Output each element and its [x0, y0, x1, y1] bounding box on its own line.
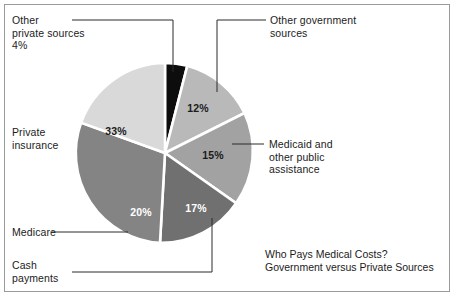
- chart-caption: Who Pays Medical Costs? Government versu…: [265, 248, 434, 274]
- slice-value-private-insurance: 33%: [105, 125, 126, 137]
- pie-slices: [76, 63, 253, 243]
- slice-value-other-government-sources: 12%: [187, 102, 208, 114]
- leader-other-government-sources: [217, 20, 266, 92]
- slice-value-cash-payments: 17%: [185, 202, 206, 214]
- callout-cash-payments: Cash payments: [12, 259, 58, 284]
- callout-medicaid: Medicaid and other public assistance: [269, 138, 333, 176]
- callout-medicare: Medicare: [12, 226, 56, 239]
- slice-value-medicaid: 15%: [202, 149, 223, 161]
- slice-value-medicare: 20%: [130, 206, 151, 218]
- callout-other-private-sources: Other private sources 4%: [12, 14, 85, 52]
- pie-chart-figure: 12% 15% 17% 20% 33% Other private source…: [0, 0, 455, 306]
- callout-other-government-sources: Other government sources: [270, 14, 356, 39]
- callout-private-insurance: Private insurance: [12, 126, 58, 151]
